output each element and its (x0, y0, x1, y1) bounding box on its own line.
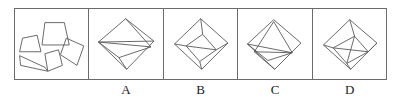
piece-quadrilateral-right (60, 38, 83, 65)
label-pieces (14, 80, 89, 102)
diamond-outline (248, 20, 301, 70)
inner-line-3 (368, 43, 377, 52)
inner-line-2 (255, 52, 275, 70)
option-b-panel[interactable] (164, 9, 238, 79)
diamond-outline (99, 19, 154, 70)
piece-thin-triangle (20, 56, 48, 72)
label-option-c: C (238, 80, 313, 102)
inner-line-1 (201, 19, 203, 35)
label-option-a: A (89, 80, 164, 102)
option-b-figure (164, 9, 237, 79)
option-a-figure (89, 9, 162, 79)
option-label-row: A B C D (14, 80, 387, 102)
inner-triangle (255, 22, 293, 53)
inner-line-5 (186, 46, 216, 50)
option-c-figure (238, 9, 311, 79)
scattered-pieces-figure (15, 9, 88, 79)
diamond-outline (174, 19, 227, 70)
option-a-panel[interactable] (89, 9, 163, 79)
scattered-pieces-panel[interactable] (15, 9, 89, 79)
piece-trapezoid-left (20, 35, 41, 52)
inner-line-3 (268, 53, 292, 61)
inner-line-4 (99, 42, 119, 58)
option-c-panel[interactable] (238, 9, 312, 79)
label-option-b: B (163, 80, 238, 102)
option-d-panel[interactable] (313, 9, 386, 79)
figure-assembly-question: A B C D (0, 0, 400, 107)
inner-line-2 (99, 42, 151, 47)
option-d-figure (313, 9, 386, 79)
piece-parallelogram-bottom (45, 50, 63, 71)
inner-line-3 (119, 47, 151, 58)
label-option-d: D (312, 80, 387, 102)
inner-line-5 (126, 19, 151, 47)
panel-strip (14, 8, 387, 80)
